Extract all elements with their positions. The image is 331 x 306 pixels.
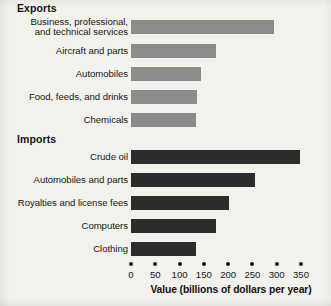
row-label: Aircraft and parts — [56, 46, 128, 56]
row-label: Clothing — [93, 244, 128, 254]
bar-import-4 — [131, 242, 196, 256]
bar-import-0 — [131, 150, 300, 164]
row-label: Food, feeds, and drinks — [29, 92, 128, 102]
chart-row: Royalties and license fees — [0, 196, 331, 210]
chart-row: Crude oil — [0, 150, 331, 164]
x-tick-dot — [178, 262, 182, 266]
chart-row: Automobiles and parts — [0, 173, 331, 187]
x-tick-dot — [202, 262, 206, 266]
bar-import-1 — [131, 173, 255, 187]
x-tick-label: 250 — [244, 269, 260, 280]
row-label: Chemicals — [84, 115, 128, 125]
bar-export-1 — [131, 44, 216, 58]
x-tick-label: 150 — [196, 269, 212, 280]
chart-row: Automobiles — [0, 67, 331, 81]
row-label: Automobiles — [76, 69, 128, 79]
x-tick-dot — [299, 262, 303, 266]
x-tick-dot — [129, 262, 133, 266]
x-tick-label: 0 — [128, 269, 133, 280]
chart-row: Food, feeds, and drinks — [0, 90, 331, 104]
chart-row: Computers — [0, 219, 331, 233]
chart-row: Aircraft and parts — [0, 44, 331, 58]
x-tick-dot — [250, 262, 254, 266]
x-tick-dot — [153, 262, 157, 266]
bar-export-3 — [131, 90, 197, 104]
x-tick-label: 100 — [172, 269, 188, 280]
row-label: Crude oil — [90, 152, 128, 162]
chart-row: Clothing — [0, 242, 331, 256]
bar-chart-figure: Exports Imports Business, professional, … — [0, 0, 331, 306]
x-axis: 050100150200250300350 Value (billions of… — [0, 262, 331, 306]
row-label: Automobiles and parts — [34, 175, 128, 185]
x-tick-dot — [226, 262, 230, 266]
x-tick-label: 350 — [293, 269, 309, 280]
bar-export-2 — [131, 67, 201, 81]
x-tick-label: 200 — [220, 269, 236, 280]
bar-export-0 — [131, 20, 274, 34]
chart-row: Business, professional, and technical se… — [0, 20, 331, 34]
group-heading-imports: Imports — [17, 133, 56, 145]
bar-export-4 — [131, 113, 196, 127]
x-tick-dot — [275, 262, 279, 266]
row-label: Royalties and license fees — [18, 198, 128, 208]
x-tick-label: 50 — [150, 269, 161, 280]
x-tick-label: 300 — [269, 269, 285, 280]
row-label: Business, professional, and technical se… — [30, 17, 128, 38]
bar-import-2 — [131, 196, 229, 210]
group-heading-exports: Exports — [17, 2, 57, 14]
bar-import-3 — [131, 219, 216, 233]
row-label: Computers — [82, 221, 128, 231]
x-axis-title: Value (billions of dollars per year) — [131, 284, 331, 295]
chart-row: Chemicals — [0, 113, 331, 127]
